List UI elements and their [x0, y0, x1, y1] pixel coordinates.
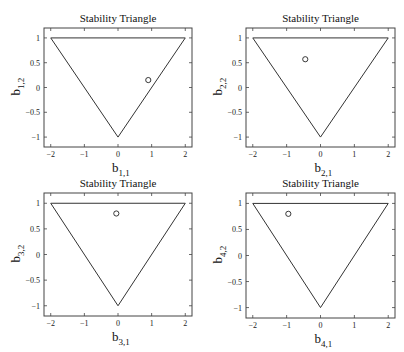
y-tick-label: 0	[238, 84, 242, 93]
y-tick-label: 1	[36, 199, 40, 208]
x-axis-label: b1,1	[112, 160, 130, 178]
x-tick-label: −2	[249, 150, 258, 159]
x-tick-label: 2	[386, 321, 390, 330]
x-axis-label: b4,1	[315, 331, 333, 349]
y-axis-label: b2,2	[210, 78, 228, 96]
x-tick-label: 2	[386, 150, 390, 159]
axes-frame	[44, 28, 192, 147]
x-tick-label: −2	[249, 321, 258, 330]
y-tick-label: 0.5	[30, 225, 40, 234]
x-tick-label: 2	[183, 150, 187, 159]
x-axis-label: b3,1	[112, 329, 130, 347]
circle-marker	[114, 211, 119, 216]
y-axis-label: b4,2	[210, 246, 228, 264]
axes-frame	[246, 193, 395, 318]
y-tick-label: 0.5	[232, 225, 242, 234]
x-tick-label: −1	[282, 321, 291, 330]
chart-title: Stability Triangle	[80, 177, 157, 189]
x-tick-label: −2	[46, 319, 55, 328]
x-tick-label: 0	[319, 150, 323, 159]
x-tick-label: 1	[150, 150, 154, 159]
x-tick-label: 0	[319, 321, 323, 330]
x-tick-label: 2	[183, 319, 187, 328]
y-tick-label: 1	[238, 199, 242, 208]
chart-title: Stability Triangle	[282, 177, 359, 189]
y-tick-label: 1	[36, 34, 40, 43]
y-tick-label: −1	[233, 133, 242, 142]
stability-triangle	[253, 203, 388, 307]
subplot-1: Stability Triangle−2−101210.50−0.5−1b1,1…	[8, 12, 192, 178]
y-tick-label: −1	[31, 302, 40, 311]
x-tick-label: −1	[282, 150, 291, 159]
circle-marker	[146, 77, 151, 82]
y-tick-label: −0.5	[25, 108, 40, 117]
y-tick-label: 1	[238, 34, 242, 43]
x-axis-label: b2,1	[315, 160, 333, 178]
y-tick-label: 0.5	[232, 59, 242, 68]
y-tick-label: 0	[36, 84, 40, 93]
x-tick-label: 1	[352, 150, 356, 159]
subplot-2: Stability Triangle−2−101210.50−0.5−1b2,1…	[210, 12, 395, 178]
circle-marker	[303, 57, 308, 62]
subplot-4: Stability Triangle−2−101210.50−0.5−1b4,1…	[210, 177, 395, 349]
y-tick-label: 0.5	[30, 59, 40, 68]
y-tick-label: 0	[238, 252, 242, 261]
y-tick-label: 0	[36, 251, 40, 260]
x-tick-label: 0	[116, 319, 120, 328]
circle-marker	[286, 211, 291, 216]
x-tick-label: 1	[352, 321, 356, 330]
x-tick-label: −1	[80, 150, 89, 159]
subplot-3: Stability Triangle−2−101210.50−0.5−1b3,1…	[8, 177, 192, 347]
stability-triangle	[253, 38, 388, 137]
stability-triangle	[51, 38, 186, 137]
axes-frame	[246, 28, 395, 147]
stability-triangle	[51, 203, 186, 306]
chart-title: Stability Triangle	[80, 12, 157, 24]
y-tick-label: −1	[31, 133, 40, 142]
y-tick-label: −0.5	[227, 108, 242, 117]
y-tick-label: −0.5	[227, 278, 242, 287]
x-tick-label: −1	[80, 319, 89, 328]
y-axis-label: b1,2	[8, 78, 26, 96]
x-tick-label: 1	[150, 319, 154, 328]
chart-title: Stability Triangle	[282, 12, 359, 24]
x-tick-label: −2	[46, 150, 55, 159]
x-tick-label: 0	[116, 150, 120, 159]
figure: Stability Triangle−2−101210.50−0.5−1b1,1…	[0, 0, 404, 352]
y-tick-label: −0.5	[25, 276, 40, 285]
y-tick-label: −1	[233, 304, 242, 313]
y-axis-label: b3,2	[8, 245, 26, 263]
